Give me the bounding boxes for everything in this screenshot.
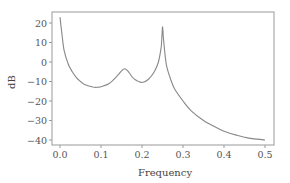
spectrum-chart: 0.00.10.20.30.40.5 20100−10−20−30−40 Fre…	[0, 0, 290, 183]
x-tick-label: 0.5	[257, 149, 272, 160]
y-tick-label: −30	[27, 115, 47, 126]
x-axis-ticks: 0.00.10.20.30.40.5	[52, 145, 272, 160]
x-tick-label: 0.0	[52, 149, 67, 160]
x-tick-label: 0.2	[134, 149, 149, 160]
y-tick-label: −40	[27, 135, 47, 146]
x-tick-label: 0.3	[175, 149, 190, 160]
y-tick-label: 0	[41, 57, 47, 68]
y-tick-label: −10	[27, 76, 47, 87]
y-axis-label: dB	[6, 75, 17, 89]
y-axis-ticks: 20100−10−20−30−40	[27, 18, 52, 146]
x-tick-label: 0.1	[93, 149, 108, 160]
spectrum-line	[60, 17, 265, 140]
x-tick-label: 0.4	[216, 149, 231, 160]
y-tick-label: 10	[35, 37, 47, 48]
y-tick-label: −20	[27, 96, 47, 107]
x-axis-label: Frequency	[138, 167, 192, 178]
y-tick-label: 20	[35, 18, 47, 29]
